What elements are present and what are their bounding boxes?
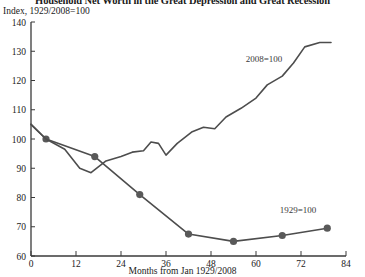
data-point-marker [230,238,237,245]
x-axis-label: Months from Jan 1929/2008 [0,266,365,276]
series-annotations: 1929=1002008=100 [246,54,317,215]
y-tick-label: 130 [12,47,27,57]
axes-group [31,22,346,256]
data-point-marker [185,230,192,237]
y-tick-label: 120 [12,76,27,86]
y-tick-label: 60 [17,252,27,262]
data-point-marker [91,153,98,160]
series-annotation-1: 2008=100 [246,54,283,64]
y-tick-label: 70 [17,222,27,232]
chart-container: Household Net Worth in the Great Depress… [0,0,365,277]
chart-plot: 60708090100110120130140 012243648607284 … [0,0,365,277]
data-point-marker [324,225,331,232]
y-tick-label: 100 [12,135,27,145]
series-annotation-0: 1929=100 [280,205,317,215]
y-tick-label: 110 [12,105,26,115]
data-point-marker [136,191,143,198]
y-tick-label: 90 [17,164,27,174]
y-tick-label: 140 [12,18,27,28]
data-point-marker [279,232,286,239]
series-line-1 [31,42,331,172]
y-tick-label: 80 [17,193,27,203]
